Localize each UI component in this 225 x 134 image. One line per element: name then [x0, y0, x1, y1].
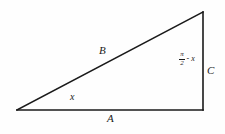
triangle-side-b-line: [17, 12, 203, 110]
side-label-b: B: [99, 45, 106, 56]
minus-x-term: - x: [187, 55, 195, 63]
angle-label-complement: π 2 - x: [179, 51, 195, 68]
side-label-c: C: [207, 65, 214, 76]
fraction-numerator: π: [179, 51, 185, 58]
side-label-a: A: [107, 113, 114, 124]
fraction-pi-over-two: π 2: [179, 51, 185, 68]
fraction-denominator: 2: [179, 60, 185, 67]
angle-label-x: x: [70, 92, 74, 102]
right-triangle-figure: A B C x π 2 - x: [0, 0, 225, 134]
